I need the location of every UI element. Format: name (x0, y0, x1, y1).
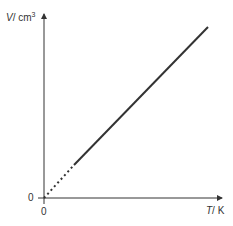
y-unit-power: 3 (32, 11, 36, 18)
y-unit: / cm (13, 12, 32, 23)
x-axis-label: T/ K (206, 205, 224, 216)
y-var: V (6, 12, 13, 23)
x-zero-label: 0 (41, 206, 47, 217)
x-unit: / K (212, 205, 224, 216)
y-zero-label: 0 (28, 192, 34, 203)
chart-canvas (0, 0, 233, 226)
y-axis-label: V/ cm3 (6, 12, 35, 23)
extrapolated-line (44, 165, 74, 198)
data-line (74, 27, 208, 165)
